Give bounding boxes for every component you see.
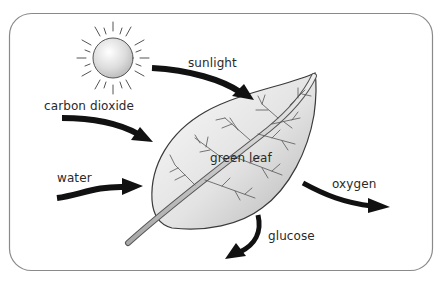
diagram-canvas [0,0,442,282]
green-leaf-label: green leaf [210,152,272,164]
carbon-dioxide-label: carbon dioxide [44,100,134,112]
oxygen-label: oxygen [332,178,376,190]
glucose-label: glucose [268,230,315,242]
sunlight-label: sunlight [188,57,237,69]
photosynthesis-diagram: sunlight carbon dioxide water green leaf… [0,0,442,282]
water-label: water [57,172,92,184]
